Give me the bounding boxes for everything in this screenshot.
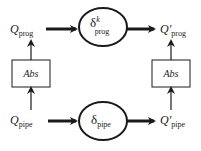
abs-right-label: Abs (163, 68, 179, 79)
delta-pipe-label: δpipe (91, 112, 111, 129)
q-prime-pipe-label: Q′pipe (160, 113, 186, 129)
commutative-diagram: Qprog δkprog Q′prog Abs Abs Qpipe δpipe … (0, 0, 201, 151)
q-prime-prog-label: Q′prog (160, 22, 186, 38)
q-pipe-label: Qpipe (10, 113, 33, 129)
abs-left-label: Abs (23, 68, 39, 79)
delta-prog-label: δkprog (90, 15, 109, 36)
q-prog-label: Qprog (10, 22, 33, 38)
